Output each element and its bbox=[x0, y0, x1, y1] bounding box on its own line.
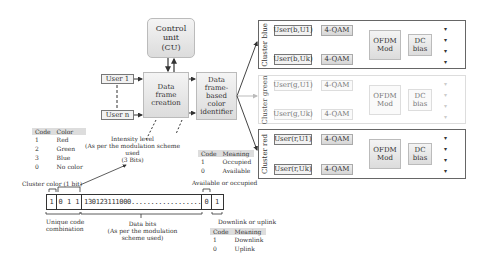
dc-bias-block: DCbias bbox=[408, 34, 432, 56]
cluster-color-annotation: Cluster color (1 bit) bbox=[22, 180, 82, 187]
intensity-annotation: Intensity level (As per the modulation s… bbox=[85, 135, 180, 163]
data-bits-annotation: Data bits (As per the modulation scheme … bbox=[105, 220, 180, 241]
link-code-table: CodeMeaning 1Downlink 0Uplink bbox=[210, 228, 266, 253]
user-bottom-block: User(g,Uk) bbox=[274, 109, 312, 120]
ofdm-mod-block: OFDMMod bbox=[369, 85, 401, 115]
color-code-table: CodeColor 1Red 2Green 3Blue 0No color bbox=[32, 128, 86, 171]
led-outputs: ▾▾▾▾ bbox=[444, 23, 447, 67]
ofdm-mod-block: OFDMMod bbox=[369, 139, 401, 169]
cluster-blue: Cluster blue User(b,U1) User(b,Uk) 4-QAM… bbox=[258, 20, 466, 69]
qam-bottom-block: 4-QAM bbox=[321, 109, 353, 120]
link-bit: 1 bbox=[212, 195, 222, 209]
qam-bottom-block: 4-QAM bbox=[321, 54, 353, 65]
user-top-block: User(g,U1) bbox=[274, 80, 312, 91]
qam-bottom-block: 4-QAM bbox=[321, 164, 353, 175]
qam-top-block: 4-QAM bbox=[321, 134, 353, 145]
cluster-label: Cluster red bbox=[261, 134, 269, 174]
led-outputs: ▾▾▾▾ bbox=[444, 78, 447, 122]
dc-bias-block: DCbias bbox=[408, 143, 432, 165]
occupied-code-table: CodeMeaning 1Occupied 0Available bbox=[198, 150, 254, 175]
qam-top-block: 4-QAM bbox=[321, 25, 353, 36]
cluster-red: Cluster red User(r,U1) User(r,Uk) 4-QAM … bbox=[258, 129, 466, 179]
user-bottom-block: User(b,Uk) bbox=[274, 54, 312, 65]
occupied-bit: 0 bbox=[202, 195, 212, 209]
intensity-bits: 0 1 1 bbox=[57, 195, 82, 209]
ofdm-mod-block: OFDMMod bbox=[369, 30, 401, 60]
cluster-label: Cluster blue bbox=[261, 23, 269, 67]
led-outputs: ▾▾▾▾ bbox=[444, 132, 447, 176]
user-top-block: User(b,U1) bbox=[274, 25, 312, 36]
data-bits: 130123111000..........................13… bbox=[82, 195, 202, 209]
user-bottom-block: User(r,Uk) bbox=[274, 164, 312, 175]
unique-code-annotation: Unique code combination bbox=[46, 218, 84, 232]
data-frame: 1 0 1 1 130123111000....................… bbox=[46, 194, 224, 210]
available-occupied-annotation: Available or occupied bbox=[192, 179, 257, 186]
downlink-uplink-annotation: Downlink or uplink bbox=[218, 218, 276, 225]
user-top-block: User(r,U1) bbox=[274, 134, 312, 145]
qam-top-block: 4-QAM bbox=[321, 80, 353, 91]
cluster-bit: 1 bbox=[47, 195, 57, 209]
cluster-label: Cluster green bbox=[261, 75, 269, 124]
dc-bias-block: DCbias bbox=[408, 89, 432, 111]
cluster-green: Cluster green User(g,U1) User(g,Uk) 4-QA… bbox=[258, 75, 466, 124]
